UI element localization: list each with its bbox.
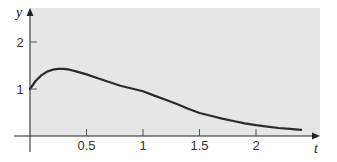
y-tick-label: 1 bbox=[16, 82, 23, 97]
line-chart: 0.511.52 12 t y bbox=[0, 0, 337, 162]
x-tick-label: 1 bbox=[139, 138, 146, 153]
plot-background bbox=[30, 8, 320, 136]
y-tick-label: 2 bbox=[16, 35, 23, 50]
x-tick-label: 2 bbox=[252, 138, 259, 153]
x-tick-label: 0.5 bbox=[77, 138, 95, 153]
x-axis-label: t bbox=[314, 141, 319, 156]
y-axis-label: y bbox=[14, 5, 23, 20]
x-tick-label: 1.5 bbox=[190, 138, 208, 153]
